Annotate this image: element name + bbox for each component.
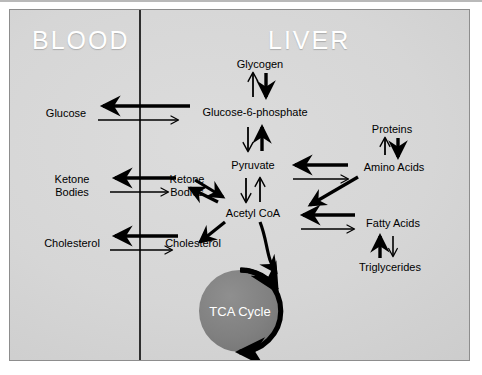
node-liver-cholesterol: Cholesterol: [165, 237, 221, 250]
node-blood-ketone-bodies: Ketone Bodies: [40, 173, 104, 198]
top-rule: [0, 0, 482, 2]
node-liver-ketone-bodies: Ketone Bodies: [159, 173, 215, 198]
diagram-panel: BLOOD LIVER: [9, 9, 470, 361]
node-blood-glucose: Glucose: [46, 107, 86, 120]
node-triglycerides: Triglycerides: [359, 261, 421, 274]
node-amino-acids: Amino Acids: [364, 161, 425, 174]
node-acetyl-coa: Acetyl CoA: [226, 207, 280, 220]
node-glucose-6-phosphate: Glucose-6-phosphate: [202, 106, 307, 119]
compartment-divider: [139, 10, 141, 361]
tca-cycle-label: TCA Cycle: [209, 304, 270, 319]
node-blood-ketone-line1: Ketone: [55, 173, 90, 185]
node-blood-cholesterol: Cholesterol: [44, 237, 100, 250]
node-fatty-acids: Fatty Acids: [366, 217, 420, 230]
compartment-title-blood: BLOOD: [32, 26, 130, 55]
arrow-amino-acids-to-acetyl-coa: [310, 177, 358, 205]
node-proteins: Proteins: [372, 123, 412, 136]
figure-root: BLOOD LIVER: [0, 0, 482, 375]
node-liver-ketone-line2: Bodies: [170, 185, 204, 197]
node-pyruvate: Pyruvate: [231, 159, 274, 172]
compartment-title-liver: LIVER: [268, 26, 350, 55]
arrow-acetyl-coa-to-tca-cycle: [260, 222, 276, 272]
node-blood-ketone-line2: Bodies: [55, 185, 89, 197]
node-liver-ketone-line1: Ketone: [170, 173, 205, 185]
node-glycogen: Glycogen: [237, 58, 283, 71]
